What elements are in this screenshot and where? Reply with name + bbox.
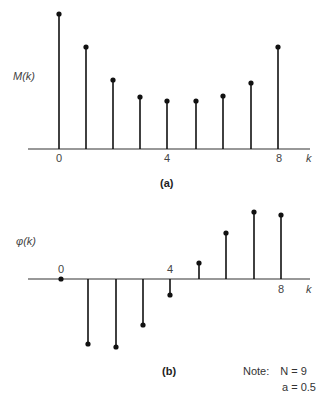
note-label: Note: [243, 365, 269, 377]
phase-point [167, 292, 172, 297]
phase-point [278, 212, 283, 217]
xlabel-a: k [306, 152, 312, 164]
xlabel-b: k [306, 283, 312, 295]
tick-b-0: 0 [58, 263, 64, 275]
tick-a-4: 4 [164, 152, 170, 164]
phase-point [251, 209, 256, 214]
caption-b: (b) [162, 365, 176, 377]
note-a: a = 0.5 [282, 379, 316, 395]
magnitude-point [56, 11, 61, 16]
stem-plots: M(k) 0 4 8 k (a) φ(k) 0 4 8 k (b) [0, 0, 324, 401]
tick-a-0: 0 [56, 152, 62, 164]
phase-point [223, 230, 228, 235]
note-n: N = 9 [280, 365, 307, 377]
ylabel-a: M(k) [13, 70, 35, 82]
magnitude-point [275, 44, 280, 49]
note-block: Note: N = 9 [243, 363, 307, 379]
phase-point [58, 276, 63, 281]
caption-a: (a) [160, 177, 174, 189]
phase-point [196, 260, 201, 265]
phase-plot: φ(k) 0 4 8 k (b) [16, 209, 312, 377]
magnitude-point [110, 77, 115, 82]
tick-b-8: 8 [278, 283, 284, 295]
magnitude-plot: M(k) 0 4 8 k (a) [13, 11, 312, 189]
magnitude-point [193, 98, 198, 103]
phase-point [113, 344, 118, 349]
magnitude-point [83, 44, 88, 49]
tick-b-4: 4 [167, 263, 173, 275]
magnitude-point [164, 98, 169, 103]
tick-a-8: 8 [276, 152, 282, 164]
phase-point [85, 341, 90, 346]
magnitude-point [220, 93, 225, 98]
phase-point [140, 322, 145, 327]
ylabel-b: φ(k) [16, 235, 36, 247]
magnitude-point [248, 80, 253, 85]
magnitude-point [137, 94, 142, 99]
